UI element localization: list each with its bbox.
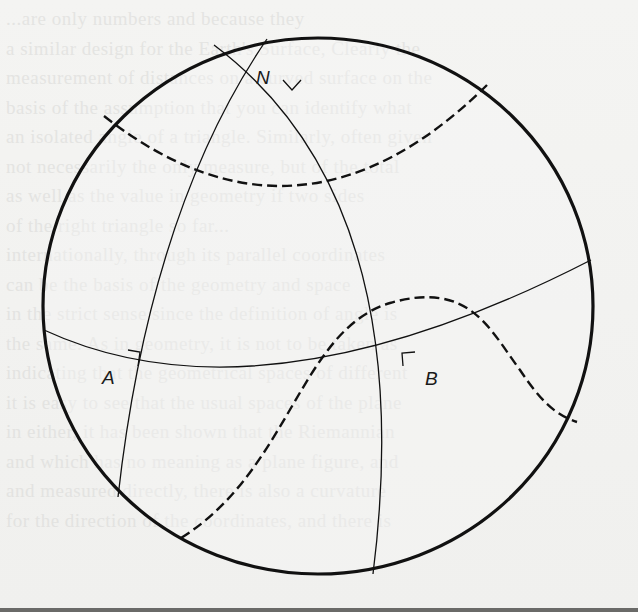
label-a: A xyxy=(101,367,115,388)
label-b: B xyxy=(425,368,438,389)
label-n: N xyxy=(256,67,270,88)
page-bottom-edge xyxy=(0,608,638,612)
sphere-diagram: N A B xyxy=(0,0,638,612)
book-page: ...are only numbers and because they a s… xyxy=(0,0,638,612)
sphere-outline xyxy=(43,38,593,574)
